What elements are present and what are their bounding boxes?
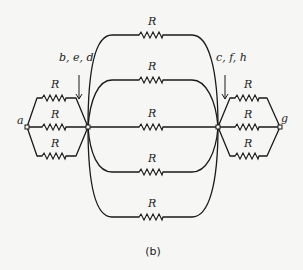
resistor-center-second: [139, 77, 163, 83]
node-g: [278, 125, 282, 129]
label-node-a: a: [17, 114, 24, 127]
label-center-bottom-r: R: [147, 197, 156, 210]
label-right-middle-r: R: [243, 108, 252, 121]
label-center-second-r: R: [147, 60, 156, 73]
arrow-down-icon: [76, 75, 82, 99]
node-a: [25, 125, 29, 129]
node-right-junction: [216, 125, 220, 129]
resistor-left-bottom: [42, 153, 66, 159]
resistor-right-middle: [235, 124, 259, 130]
resistor-center-top: [139, 32, 163, 38]
figure-caption: (b): [145, 245, 161, 258]
label-left-junction: b, e, d: [59, 51, 94, 64]
label-right-junction: c, f, h: [216, 51, 247, 64]
label-right-top-r: R: [243, 78, 252, 91]
node-left-junction: [86, 125, 90, 129]
label-left-top-r: R: [50, 78, 59, 91]
label-left-middle-r: R: [50, 108, 59, 121]
center-parallel-cluster: R R R R R: [88, 15, 218, 220]
resistor-center-fourth: [139, 169, 163, 175]
circuit-diagram: R R R R R R R R: [0, 0, 303, 270]
resistor-left-middle: [42, 124, 66, 130]
right-parallel-cluster: R R R: [218, 78, 280, 159]
resistor-center-middle: [139, 124, 163, 130]
resistor-right-bottom: [235, 153, 259, 159]
label-center-middle-r: R: [147, 107, 156, 120]
resistor-right-top: [235, 95, 259, 101]
arrow-down-icon: [222, 75, 228, 99]
label-center-top-r: R: [147, 15, 156, 28]
label-left-bottom-r: R: [50, 137, 59, 150]
label-center-fourth-r: R: [147, 152, 156, 165]
resistor-center-bottom: [139, 214, 163, 220]
label-right-bottom-r: R: [243, 137, 252, 150]
resistor-left-top: [42, 95, 66, 101]
label-node-g: g: [281, 112, 288, 125]
